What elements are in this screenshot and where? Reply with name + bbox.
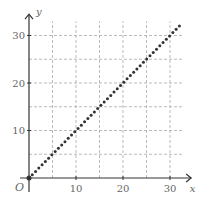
series-dot [57,147,60,150]
series-dot [178,25,181,28]
series-dot [126,77,129,80]
series-dot [34,170,37,173]
series-dot [129,74,132,77]
series-dot [142,61,145,64]
series-dot [63,140,66,143]
series-dot [60,143,63,146]
series-dot [31,173,34,176]
series-dot [132,71,135,74]
series-dot [155,48,158,51]
series-dot [152,51,155,54]
y-tick-label: 10 [12,125,25,136]
series-dot [162,41,165,44]
series-dot [113,91,116,94]
series-dot [90,114,93,117]
line-chart: 102030102030xyO [0,0,198,205]
series-dot [103,101,106,104]
x-tick-label: 30 [164,183,177,194]
series-dot [145,58,148,61]
series-dot [67,137,70,140]
labels: 102030102030xyO [12,6,195,194]
series-dot [139,64,142,67]
series-dot [99,104,102,107]
series-dot [54,150,57,153]
series-dot [41,163,44,166]
series-dot [80,124,83,127]
y-tick-label: 20 [12,78,25,89]
series-dot [96,107,99,110]
y-axis-label: y [35,6,42,17]
x-tick-label: 20 [117,183,130,194]
series-dot [50,153,53,156]
origin-point [27,176,32,181]
series-dot [116,87,119,90]
series-dot [168,34,171,37]
series-dot [83,120,86,123]
x-axis-label: x [190,183,196,194]
x-tick-label: 10 [70,183,83,194]
series-dot [171,31,174,34]
series-dot [93,110,96,113]
series-dot [122,81,125,84]
series-dot [135,67,138,70]
series-dot [165,38,168,41]
series-dot [73,130,76,133]
series-dot [119,84,122,87]
series-dot [47,157,50,160]
series-dot [148,54,151,57]
series-dot [70,134,73,137]
series-dot [109,94,112,97]
axes [20,14,191,192]
data-series [27,25,181,181]
origin-label: O [15,181,24,194]
series-dot [86,117,89,120]
series-dot [44,160,47,163]
series-dot [175,28,178,31]
y-tick-label: 30 [12,30,25,41]
series-dot [77,127,80,130]
series-dot [37,167,40,170]
series-dot [158,44,161,47]
series-dot [106,97,109,100]
